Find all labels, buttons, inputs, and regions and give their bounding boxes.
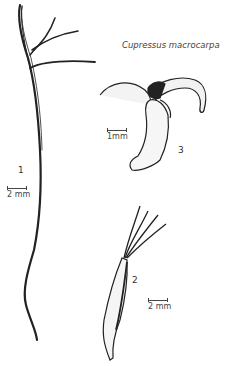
specimen-3-drawing xyxy=(100,78,206,170)
specimen-drawings xyxy=(0,0,239,366)
specimen-2-number: 2 xyxy=(132,276,138,285)
specimen-1-scale-label: 2 mm xyxy=(7,190,30,199)
scale-bar-line xyxy=(7,186,27,190)
specimen-2-scale-label: 2 mm xyxy=(148,302,171,311)
scale-bar-line xyxy=(107,128,127,132)
specimen-1-number: 1 xyxy=(18,166,24,175)
specimen-1-drawing xyxy=(19,5,95,340)
botanical-figure: Cupressus macrocarpa 1 2 mm 3 1mm 2 2 mm xyxy=(0,0,239,366)
specimen-1-scale-bar: 2 mm xyxy=(7,186,30,199)
specimen-3-scale-label: 1mm xyxy=(107,132,128,141)
scale-bar-line xyxy=(148,298,168,302)
species-title: Cupressus macrocarpa xyxy=(122,40,220,50)
specimen-3-number: 3 xyxy=(178,146,184,155)
specimen-3-scale-bar: 1mm xyxy=(107,128,128,141)
specimen-2-scale-bar: 2 mm xyxy=(148,298,171,311)
